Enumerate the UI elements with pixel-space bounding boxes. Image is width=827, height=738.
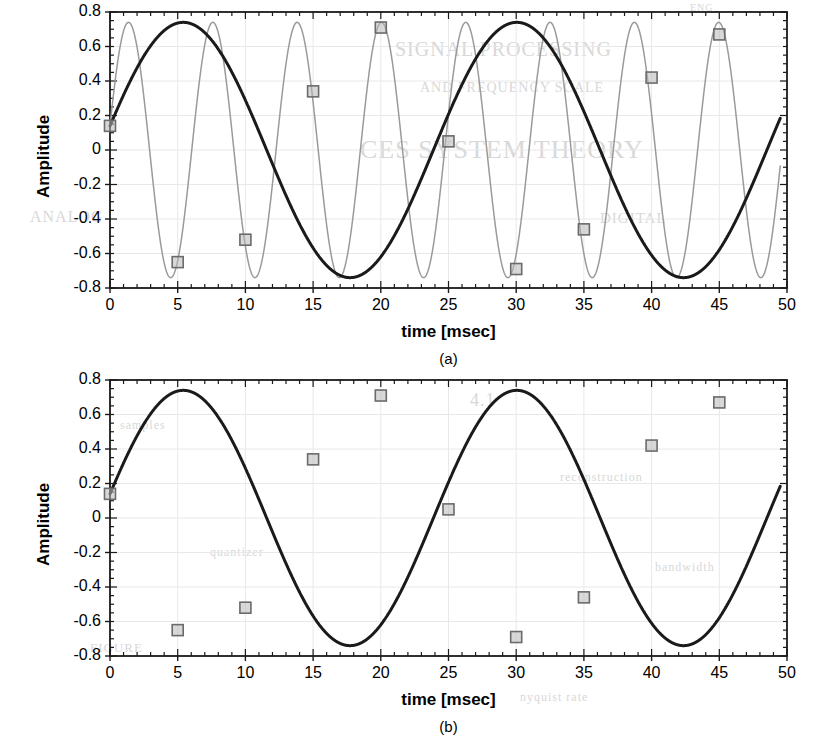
y-tick-label: -0.8 bbox=[73, 278, 101, 296]
y-tick-label: 0.2 bbox=[79, 474, 101, 492]
x-tick-label: 50 bbox=[762, 664, 812, 682]
y-tick-label: -0.2 bbox=[73, 543, 101, 561]
sample-marker bbox=[240, 234, 251, 245]
sample-marker bbox=[443, 136, 454, 147]
x-tick-label: 30 bbox=[491, 664, 541, 682]
sample-marker bbox=[714, 29, 725, 40]
aliasing-figure: ENGSIGNAL PROCESSINGAND FREQUENCY SCALEC… bbox=[0, 0, 827, 738]
x-tick-label: 10 bbox=[220, 296, 270, 314]
y-tick-label: 0.4 bbox=[79, 71, 101, 89]
y-tick-label: 0.6 bbox=[79, 37, 101, 55]
sample-marker bbox=[578, 592, 589, 603]
x-tick-label: 5 bbox=[153, 296, 203, 314]
y-axis-label-a: Amplitude bbox=[34, 115, 54, 198]
x-tick-label: 10 bbox=[220, 664, 270, 682]
x-tick-label: 40 bbox=[627, 664, 677, 682]
sample-marker bbox=[511, 264, 522, 275]
sample-marker bbox=[646, 72, 657, 83]
x-tick-label: 25 bbox=[424, 296, 474, 314]
panel-caption-b: (b) bbox=[389, 718, 509, 735]
x-tick-label: 25 bbox=[424, 664, 474, 682]
plot-area-a bbox=[0, 0, 827, 330]
y-tick-label: 0.4 bbox=[79, 439, 101, 457]
x-axis-label-b: time [msec] bbox=[329, 690, 569, 710]
y-tick-label: 0.8 bbox=[79, 370, 101, 388]
x-tick-label: 50 bbox=[762, 296, 812, 314]
y-tick-label: -0.6 bbox=[73, 612, 101, 630]
sample-marker bbox=[511, 632, 522, 643]
x-tick-label: 0 bbox=[85, 296, 135, 314]
sample-marker bbox=[443, 504, 454, 515]
sample-marker bbox=[172, 257, 183, 268]
y-tick-label: 0 bbox=[92, 508, 101, 526]
x-tick-label: 30 bbox=[491, 296, 541, 314]
panel-caption-a: (a) bbox=[389, 350, 509, 367]
sample-marker bbox=[375, 390, 386, 401]
y-tick-label: 0.8 bbox=[79, 2, 101, 20]
sample-marker bbox=[714, 397, 725, 408]
sample-marker bbox=[172, 625, 183, 636]
sample-marker bbox=[105, 120, 116, 131]
y-tick-label: -0.4 bbox=[73, 209, 101, 227]
sample-marker bbox=[375, 22, 386, 33]
sample-marker bbox=[308, 86, 319, 97]
sample-marker bbox=[105, 488, 116, 499]
x-tick-label: 45 bbox=[694, 664, 744, 682]
y-axis-label-b: Amplitude bbox=[34, 483, 54, 566]
y-tick-label: 0.2 bbox=[79, 106, 101, 124]
y-tick-label: -0.8 bbox=[73, 646, 101, 664]
x-tick-label: 40 bbox=[627, 296, 677, 314]
x-tick-label: 35 bbox=[559, 296, 609, 314]
sample-marker bbox=[578, 224, 589, 235]
sample-marker bbox=[308, 454, 319, 465]
chart-panel-a: Amplitude time [msec] (a) 0.80.60.40.20-… bbox=[0, 0, 827, 368]
x-tick-label: 0 bbox=[85, 664, 135, 682]
chart-panel-b: Amplitude time [msec] (b) 0.80.60.40.20-… bbox=[0, 368, 827, 738]
x-tick-label: 20 bbox=[356, 296, 406, 314]
y-tick-label: -0.4 bbox=[73, 577, 101, 595]
x-tick-label: 5 bbox=[153, 664, 203, 682]
y-tick-label: -0.2 bbox=[73, 175, 101, 193]
plot-area-b bbox=[0, 368, 827, 698]
x-tick-label: 20 bbox=[356, 664, 406, 682]
sample-marker bbox=[646, 440, 657, 451]
x-tick-label: 15 bbox=[288, 296, 338, 314]
x-tick-label: 35 bbox=[559, 664, 609, 682]
sample-marker bbox=[240, 602, 251, 613]
x-tick-label: 45 bbox=[694, 296, 744, 314]
y-tick-label: -0.6 bbox=[73, 244, 101, 262]
y-tick-label: 0.6 bbox=[79, 405, 101, 423]
x-tick-label: 15 bbox=[288, 664, 338, 682]
x-axis-label-a: time [msec] bbox=[329, 322, 569, 342]
y-tick-label: 0 bbox=[92, 140, 101, 158]
